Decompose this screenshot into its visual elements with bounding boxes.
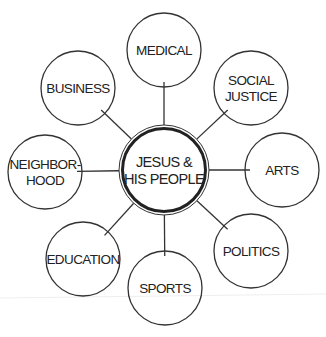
node-medical: MEDICAL [127,13,201,87]
node-label: EDUCATION [46,252,119,267]
node-neighborhood: NEIGHBOR-HOOD [8,135,82,209]
node-arts: ARTS [245,133,319,207]
node-sports: SPORTS [128,251,202,325]
node-label: SOCIAL [228,73,275,88]
node-label: SPORTS [139,281,191,296]
connector-social-justice [197,110,228,139]
node-social-justice: SOCIALJUSTICE [214,51,288,125]
node-label: HOOD [26,173,65,188]
connector-politics [197,201,228,230]
node-label: JUSTICE [225,89,278,104]
node-label: POLITICS [223,244,280,259]
node-label: ARTS [265,163,299,178]
connector-business [101,110,131,139]
center-label: HIS PEOPLE [124,171,205,187]
center-label: JESUS & [136,154,193,170]
node-circle [8,135,82,209]
node-label: MEDICAL [136,43,193,58]
node-business: BUSINESS [41,51,115,125]
connector-neighborhood [77,171,119,172]
node-circle [214,51,288,125]
node-politics: POLITICS [214,214,288,288]
node-education: EDUCATION [46,222,120,296]
node-label: NEIGHBOR- [9,157,80,172]
connector-education [105,203,134,235]
center-node: JESUS &HIS PEOPLE [119,125,209,215]
node-label: BUSINESS [46,81,110,96]
mind-map-diagram: MEDICALSOCIALJUSTICEARTSPOLITICSSPORTSED… [0,0,326,337]
